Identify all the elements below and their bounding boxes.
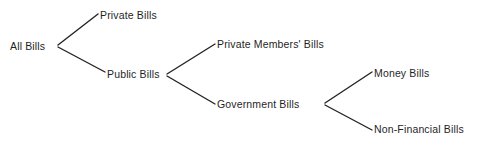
edge-all-bills-to-public-bills xyxy=(58,47,105,72)
node-non-financial-bills: Non-Financial Bills xyxy=(374,123,464,135)
node-money-bills: Money Bills xyxy=(374,67,429,79)
node-public-bills: Public Bills xyxy=(107,68,160,80)
edge-public-bills-to-government-bills xyxy=(167,76,215,104)
node-private-members-bills: Private Members' Bills xyxy=(217,38,324,50)
tree-diagram: All Bills Private Bills Public Bills Pri… xyxy=(0,0,480,147)
node-government-bills: Government Bills xyxy=(217,98,299,110)
node-all-bills: All Bills xyxy=(10,40,45,52)
edge-public-bills-to-private-members xyxy=(167,44,215,74)
edge-government-bills-to-non-financial xyxy=(325,105,372,130)
node-private-bills: Private Bills xyxy=(100,9,157,21)
edge-all-bills-to-private-bills xyxy=(58,14,98,45)
edge-government-bills-to-money-bills xyxy=(325,72,372,103)
